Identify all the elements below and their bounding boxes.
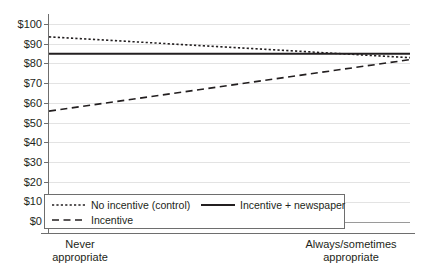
legend-item-incentive-newspaper: Incentive + newspaper — [201, 197, 345, 213]
legend-swatch-solid — [201, 200, 235, 210]
line-chart: $100 $90 $80 $70 $60 $50 $40 $30 $20 $10… — [0, 0, 422, 278]
y-tick-label-70: $70 — [24, 78, 42, 89]
legend-label-incentive-newspaper: Incentive + newspaper — [240, 200, 345, 211]
y-tick-label-100: $100 — [18, 19, 42, 30]
legend: No incentive (control) Incentive + newsp… — [44, 194, 345, 229]
y-tick-label-30: $30 — [24, 157, 42, 168]
y-tick-label-20: $20 — [24, 177, 42, 188]
legend-label-incentive: Incentive — [91, 215, 133, 226]
y-tick-label-80: $80 — [24, 58, 42, 69]
legend-swatch-dotted — [52, 200, 86, 210]
legend-item-no-incentive: No incentive (control) — [52, 197, 190, 213]
y-tick-label-0: $0 — [30, 216, 42, 227]
legend-swatch-dashed — [52, 215, 86, 225]
legend-item-incentive: Incentive — [52, 212, 133, 228]
x-category-label-never: Never appropriate — [20, 238, 140, 264]
x-category-label-always: Always/sometimes appropriate — [288, 238, 414, 264]
legend-label-no-incentive: No incentive (control) — [91, 200, 190, 211]
x-axis-line — [41, 233, 415, 234]
y-tick-label-50: $50 — [24, 118, 42, 129]
y-tick-label-10: $10 — [24, 196, 42, 207]
series-line-incentive — [49, 60, 410, 111]
y-tick-label-40: $40 — [24, 137, 42, 148]
y-axis-labels: $100 $90 $80 $70 $60 $50 $40 $30 $20 $10… — [0, 0, 42, 278]
y-tick-label-90: $90 — [24, 39, 42, 50]
y-tick-label-60: $60 — [24, 98, 42, 109]
